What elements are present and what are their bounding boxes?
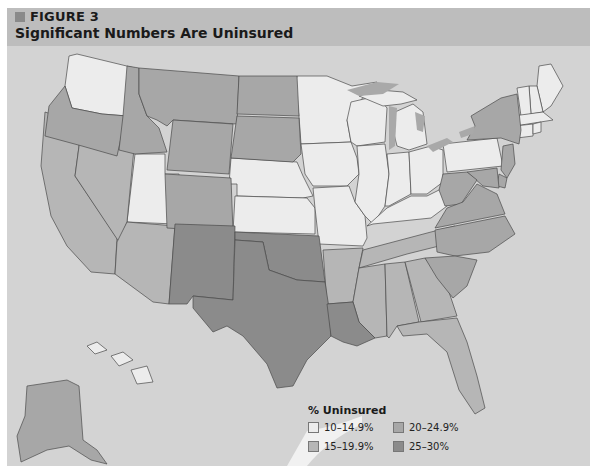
figure-label: FIGURE 3: [15, 9, 99, 24]
legend-swatch: [308, 422, 319, 433]
legend-label: 10–14.9%: [324, 422, 374, 433]
legend-label: 15–19.9%: [324, 441, 374, 452]
legend-title: % Uninsured: [308, 404, 478, 417]
state-PA: [443, 138, 503, 172]
legend-swatch: [308, 441, 319, 452]
legend-label: 25–30%: [409, 441, 449, 452]
figure-panel: FIGURE 3 Significant Numbers Are Uninsur…: [7, 8, 590, 466]
figure-number: FIGURE 3: [30, 9, 99, 24]
state-RI: [533, 122, 541, 134]
state-MT: [139, 68, 239, 126]
legend-swatch: [393, 422, 404, 433]
state-IA: [301, 142, 359, 186]
legend-item-10-14: 10–14.9%: [308, 422, 393, 433]
state-KS: [233, 196, 315, 234]
legend-item-20-24: 20–24.9%: [393, 422, 478, 433]
legend-swatch: [393, 441, 404, 452]
state-AK: [17, 380, 107, 464]
legend: % Uninsured 10–14.9% 20–24.9% 15–19.9% 2…: [308, 404, 478, 452]
state-WY: [167, 120, 233, 174]
title-bar: FIGURE 3 Significant Numbers Are Uninsur…: [7, 8, 590, 46]
legend-item-15-19: 15–19.9%: [308, 441, 393, 452]
state-NM: [169, 224, 235, 304]
state-OH: [409, 146, 443, 194]
state-SD: [231, 116, 301, 162]
figure-square-icon: [15, 12, 25, 22]
state-NJ: [501, 144, 515, 178]
us-map: [7, 46, 590, 466]
state-FL: [397, 318, 485, 414]
figure-title: Significant Numbers Are Uninsured: [15, 25, 293, 41]
state-HI: [87, 342, 153, 384]
state-AZ: [115, 222, 175, 304]
state-NE: [229, 158, 313, 198]
legend-item-25-30: 25–30%: [393, 441, 478, 452]
legend-label: 20–24.9%: [409, 422, 459, 433]
state-NY: [467, 94, 521, 144]
state-ND: [237, 76, 299, 116]
state-CO: [165, 174, 233, 232]
